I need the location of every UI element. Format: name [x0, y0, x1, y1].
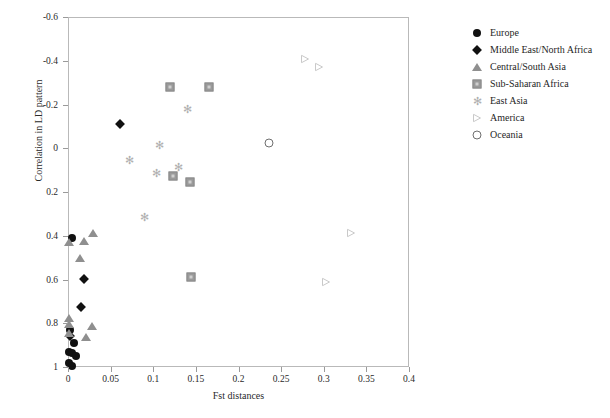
- y-axis-tick: [63, 280, 68, 281]
- data-point: ✻: [140, 213, 149, 222]
- scatter-plot-figure: ✻✻✻✻✻✻ 00.050.10.150.20.250.30.350.4 -0.…: [0, 0, 610, 418]
- y-axis-tick: [63, 236, 68, 237]
- legend-item-label: Oceania: [490, 129, 523, 140]
- marker-filled-diamond-icon: [472, 45, 482, 55]
- y-axis-tick-label: 0.8: [18, 318, 58, 328]
- legend-item-label: America: [490, 112, 524, 123]
- marker-filled-triangle-icon: [472, 63, 482, 71]
- x-axis-tick-label: 0.4: [403, 374, 415, 384]
- marker-star-icon: ✻: [473, 96, 482, 105]
- marker-filled-square-icon: [473, 79, 482, 88]
- y-axis-tick-label: 1: [18, 362, 58, 372]
- data-point: [72, 352, 80, 360]
- legend-marker: [470, 112, 484, 123]
- legend-marker: [470, 27, 484, 38]
- marker-open-triangle-right-icon: [473, 113, 482, 122]
- x-axis-tick-label: 0: [66, 374, 71, 384]
- data-points-layer: ✻✻✻✻✻✻: [69, 18, 408, 366]
- x-axis-tick: [366, 367, 367, 372]
- legend-marker: [470, 44, 484, 55]
- data-point: [76, 302, 86, 312]
- data-point: [300, 50, 309, 59]
- data-point: ✻: [152, 169, 161, 178]
- x-axis-tick-label: 0.1: [147, 374, 159, 384]
- y-axis-label: Correlation in LD pattern: [33, 31, 44, 231]
- legend-marker: ✻: [470, 95, 484, 106]
- legend-item-america[interactable]: America: [470, 109, 592, 126]
- data-point: [169, 171, 178, 180]
- data-point: ✻: [183, 104, 192, 113]
- x-axis-tick-label: 0.15: [188, 374, 205, 384]
- data-point: [265, 138, 274, 147]
- legend-item-middle-east-north-africa[interactable]: Middle East/North Africa: [470, 41, 592, 58]
- legend-item-label: East Asia: [490, 95, 528, 106]
- marker-filled-circle-icon: [473, 29, 481, 37]
- y-axis-tick: [63, 323, 68, 324]
- legend-item-label: Middle East/North Africa: [490, 44, 592, 55]
- legend-item-europe[interactable]: Europe: [470, 24, 592, 41]
- legend-marker: [470, 129, 484, 140]
- legend-marker: [470, 61, 484, 72]
- data-point: [314, 57, 323, 66]
- data-point: ✻: [125, 156, 134, 165]
- y-axis-tick-label: -0.6: [18, 12, 58, 22]
- x-axis-tick-label: 0.25: [273, 374, 290, 384]
- x-axis-tick: [68, 367, 69, 372]
- x-axis-label: Fst distances: [68, 390, 409, 401]
- data-point: [64, 320, 74, 328]
- data-point: [204, 82, 213, 91]
- y-axis-tick: [63, 148, 68, 149]
- x-axis-tick-label: 0.05: [102, 374, 119, 384]
- marker-open-circle-icon: [473, 130, 482, 139]
- y-axis-tick: [63, 367, 68, 368]
- legend-marker: [470, 78, 484, 89]
- data-point: [87, 322, 97, 330]
- legend-item-label: Europe: [490, 27, 519, 38]
- data-point: [79, 237, 89, 245]
- legend: EuropeMiddle East/North AfricaCentral/So…: [470, 24, 592, 143]
- x-axis-tick: [111, 367, 112, 372]
- y-axis-tick: [63, 17, 68, 18]
- data-point: [115, 119, 125, 129]
- y-axis-tick-label: 0.4: [18, 231, 58, 241]
- x-axis-tick: [196, 367, 197, 372]
- legend-item-sub-saharan-africa[interactable]: Sub-Saharan Africa: [470, 75, 592, 92]
- data-point: ✻: [155, 140, 164, 149]
- x-axis-tick-label: 0.35: [358, 374, 375, 384]
- legend-item-central-south-asia[interactable]: Central/South Asia: [470, 58, 592, 75]
- data-point: [187, 273, 196, 282]
- plot-area: ✻✻✻✻✻✻: [68, 17, 409, 367]
- x-axis-tick: [153, 367, 154, 372]
- data-point: [64, 329, 74, 337]
- x-axis-tick: [409, 367, 410, 372]
- legend-item-oceania[interactable]: Oceania: [470, 126, 592, 143]
- legend-item-east-asia[interactable]: ✻East Asia: [470, 92, 592, 109]
- data-point: [79, 274, 89, 284]
- y-axis-tick: [63, 192, 68, 193]
- data-point: [166, 82, 175, 91]
- data-point: [64, 238, 74, 246]
- x-axis-tick-label: 0.2: [233, 374, 245, 384]
- data-point: [185, 178, 194, 187]
- y-axis-tick: [63, 105, 68, 106]
- data-point: [322, 273, 331, 282]
- data-point: ✻: [174, 162, 183, 171]
- data-point: [346, 224, 355, 233]
- data-point: [75, 254, 85, 262]
- x-axis-tick: [239, 367, 240, 372]
- legend-item-label: Central/South Asia: [490, 61, 566, 72]
- x-axis-tick: [281, 367, 282, 372]
- x-axis-tick-label: 0.3: [318, 374, 330, 384]
- data-point: [88, 229, 98, 237]
- x-axis-tick: [324, 367, 325, 372]
- y-axis-tick-label: 0.6: [18, 275, 58, 285]
- legend-item-label: Sub-Saharan Africa: [490, 78, 569, 89]
- y-axis-tick: [63, 61, 68, 62]
- data-point: [81, 333, 91, 341]
